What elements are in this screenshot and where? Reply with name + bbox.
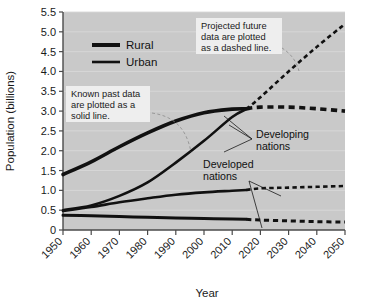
y-tick-label: 0 xyxy=(50,224,56,236)
developed-nations-line2: nations xyxy=(203,170,237,182)
projected-future-note-line3: as a dashed line. xyxy=(201,43,271,53)
population-line-chart: 00.51.01.52.02.53.03.54.04.55.05.5 19501… xyxy=(0,0,366,306)
y-tick-label: 3.5 xyxy=(41,85,56,97)
projected-future-note: Projected future data are plotted as a d… xyxy=(196,18,282,54)
known-past-note-line1: Known past data xyxy=(71,89,141,99)
x-tick-label: 2000 xyxy=(180,235,206,261)
known-past-note-line2: are plotted as a xyxy=(71,100,136,110)
known-past-note: Known past data are plotted as a solid l… xyxy=(66,86,150,122)
x-tick-label: 2040 xyxy=(292,235,318,261)
developing-nations-line1: Developing xyxy=(256,128,309,140)
y-tick-label: 1.0 xyxy=(41,184,56,196)
y-axis-tick-labels: 00.51.01.52.02.53.03.54.04.55.05.5 xyxy=(41,6,56,236)
x-axis-tick-labels: 1950196019701980199020002010202020302040… xyxy=(39,235,347,261)
projected-future-note-line2: data are plotted xyxy=(201,32,266,42)
y-tick-label: 2.5 xyxy=(41,125,56,137)
legend-label-rural: Rural xyxy=(126,39,153,51)
y-tick-label: 1.5 xyxy=(41,165,56,177)
y-tick-label: 5.5 xyxy=(41,6,56,18)
x-tick-label: 1950 xyxy=(39,235,65,261)
y-tick-label: 2.0 xyxy=(41,145,56,157)
x-tick-label: 2050 xyxy=(321,235,347,261)
x-axis-ticks xyxy=(63,230,345,235)
x-tick-label: 2030 xyxy=(264,235,290,261)
y-tick-label: 0.5 xyxy=(41,204,56,216)
x-tick-label: 2020 xyxy=(236,235,262,261)
legend-label-urban: Urban xyxy=(126,56,157,68)
y-tick-label: 4.0 xyxy=(41,65,56,77)
chart-figure: 00.51.01.52.02.53.03.54.04.55.05.5 19501… xyxy=(0,0,366,306)
x-tick-label: 1960 xyxy=(67,235,93,261)
developing-nations-line2: nations xyxy=(256,140,290,152)
x-tick-label: 1990 xyxy=(151,235,177,261)
y-axis-title: Population (billions) xyxy=(4,71,16,172)
x-tick-label: 1970 xyxy=(95,235,121,261)
y-tick-label: 3.0 xyxy=(41,105,56,117)
y-tick-label: 4.5 xyxy=(41,46,56,58)
x-tick-label: 2010 xyxy=(208,235,234,261)
y-tick-label: 5.0 xyxy=(41,26,56,38)
projected-future-note-line1: Projected future xyxy=(201,21,267,31)
x-tick-label: 1980 xyxy=(123,235,149,261)
x-axis-title: Year xyxy=(195,287,218,299)
known-past-note-line3: solid line. xyxy=(71,111,110,121)
developed-nations-line1: Developed xyxy=(203,158,254,170)
